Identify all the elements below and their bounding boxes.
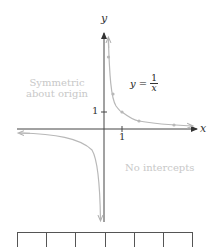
no-intercepts-annotation: No intercepts	[125, 162, 194, 173]
equation-fraction: 1 x	[150, 74, 158, 93]
table-cell	[17, 233, 46, 247]
table-cell	[46, 233, 75, 247]
point-2-0.5	[137, 119, 140, 122]
point-1-1	[120, 110, 123, 113]
symmetry-annotation: Symmetric about origin	[22, 77, 92, 99]
table-cell	[134, 233, 163, 247]
table-cell	[163, 233, 193, 247]
x-axis-label: x	[200, 122, 206, 135]
point-0.5-2	[111, 92, 114, 95]
table-cell	[105, 233, 134, 247]
table-strip	[17, 232, 193, 247]
y-axis-label: y	[101, 12, 107, 25]
symmetry-line-2: about origin	[22, 88, 92, 99]
equation-denominator: x	[152, 84, 157, 93]
curve-negative-branch	[20, 133, 101, 220]
point-4-0.25	[172, 123, 175, 126]
equation-lhs: y =	[130, 78, 147, 89]
symmetry-line-1: Symmetric	[22, 77, 92, 88]
point-0.25-4	[107, 55, 110, 58]
x-tick-label: 1	[119, 131, 125, 142]
table-cell	[75, 233, 104, 247]
equation-label: y = 1 x	[130, 74, 158, 93]
y-tick-label: 1	[92, 105, 98, 116]
